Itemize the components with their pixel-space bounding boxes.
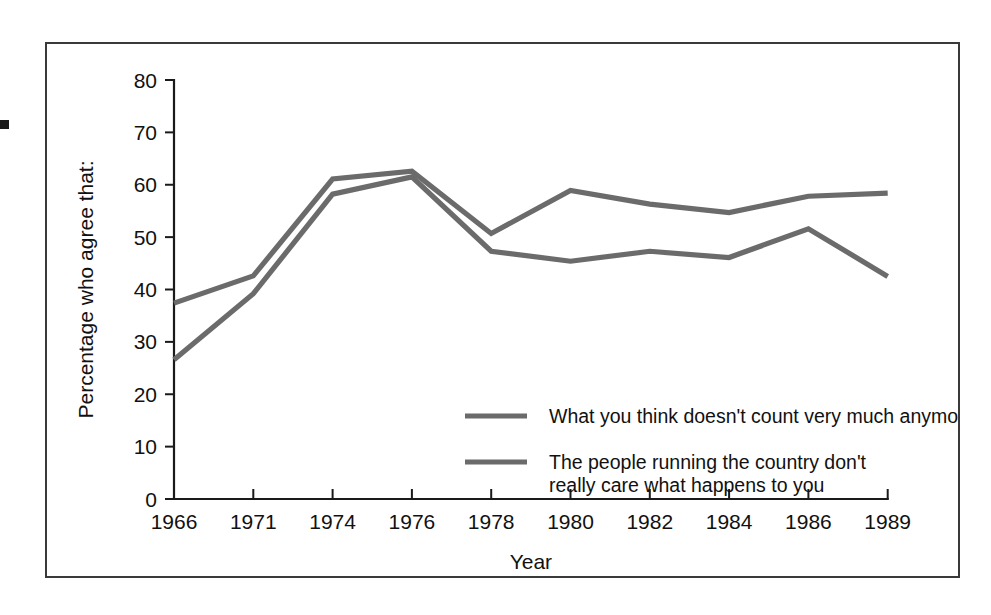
- axis-lines: [174, 80, 888, 499]
- y-tick-label-60: 60: [134, 173, 157, 196]
- y-axis-title: Percentage who agree that:: [74, 160, 97, 418]
- margin-square-mark: [0, 120, 9, 129]
- x-axis-title: Year: [510, 550, 552, 573]
- y-tick-label-10: 10: [134, 435, 157, 458]
- y-tick-label-30: 30: [134, 330, 157, 353]
- line-chart: 0102030405060708019661971197419761978198…: [47, 44, 958, 576]
- x-tick-label-1982: 1982: [626, 510, 673, 533]
- x-tick-label-1974: 1974: [309, 510, 356, 533]
- x-tick-label-1976: 1976: [389, 510, 436, 533]
- chart-frame: 0102030405060708019661971197419761978198…: [45, 42, 960, 578]
- x-tick-label-1978: 1978: [468, 510, 515, 533]
- y-tick-label-20: 20: [134, 383, 157, 406]
- y-tick-label-50: 50: [134, 226, 157, 249]
- figure-root: 0102030405060708019661971197419761978198…: [0, 0, 991, 615]
- legend-label-1: The people running the country don't: [549, 451, 867, 473]
- x-tick-label-1966: 1966: [151, 510, 198, 533]
- y-tick-label-0: 0: [145, 488, 157, 511]
- x-tick-label-1984: 1984: [706, 510, 753, 533]
- legend-label-1-line2: really care what happens to you: [549, 474, 824, 496]
- y-tick-label-70: 70: [134, 121, 157, 144]
- x-tick-label-1986: 1986: [785, 510, 832, 533]
- x-tick-label-1980: 1980: [547, 510, 594, 533]
- x-tick-label-1989: 1989: [864, 510, 911, 533]
- legend-label-0: What you think doesn't count very much a…: [549, 405, 958, 427]
- x-tick-label-1971: 1971: [230, 510, 277, 533]
- y-tick-label-80: 80: [134, 69, 157, 92]
- y-tick-label-40: 40: [134, 278, 157, 301]
